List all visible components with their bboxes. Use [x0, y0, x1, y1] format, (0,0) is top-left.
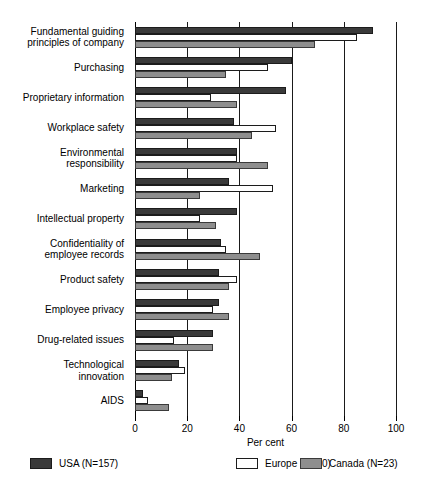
x-tick-mark — [187, 416, 188, 421]
category-label-line: AIDS — [0, 395, 124, 407]
bar-usa — [135, 178, 229, 185]
category-label: Proprietary information — [0, 92, 124, 104]
bar-canada — [135, 101, 237, 108]
bar-europe — [135, 34, 357, 41]
bar-group — [135, 204, 396, 234]
bar-canada — [135, 192, 200, 199]
category-label: Marketing — [0, 183, 124, 195]
bar-usa — [135, 208, 237, 215]
bar-europe — [135, 125, 276, 132]
x-axis-title: Per cent — [135, 437, 396, 448]
bar-usa — [135, 360, 179, 367]
bar-usa — [135, 57, 292, 64]
x-tick-mark — [239, 416, 240, 421]
bar-group — [135, 325, 396, 355]
bar-usa — [135, 27, 373, 34]
bar-canada — [135, 41, 315, 48]
bar-europe — [135, 155, 237, 162]
bar-europe — [135, 337, 174, 344]
bar-group — [135, 52, 396, 82]
category-label-line: employee records — [0, 249, 124, 261]
legend-item-canada: Canada (N=23) — [300, 458, 398, 469]
bar-group — [135, 174, 396, 204]
category-label-line: Purchasing — [0, 62, 124, 74]
category-label-line: Product safety — [0, 274, 124, 286]
chart-legend: USA (N=157)Europe (N=20)Canada (N=23) — [0, 458, 423, 480]
legend-item-usa: USA (N=157) — [30, 458, 118, 469]
bar-europe — [135, 215, 200, 222]
category-label-line: Proprietary information — [0, 92, 124, 104]
category-label: Product safety — [0, 274, 124, 286]
category-label: Confidentiality ofemployee records — [0, 238, 124, 261]
bar-canada — [135, 404, 169, 411]
category-label-line: Confidentiality of — [0, 238, 124, 250]
category-label-line: Fundamental guiding — [0, 26, 124, 38]
category-label: Drug-related issues — [0, 334, 124, 346]
bar-canada — [135, 313, 229, 320]
category-label: Purchasing — [0, 62, 124, 74]
bar-europe — [135, 276, 237, 283]
x-tick-label: 0 — [120, 423, 150, 434]
bar-group — [135, 22, 396, 52]
x-tick-mark — [135, 416, 136, 421]
bar-group — [135, 295, 396, 325]
bar-europe — [135, 246, 226, 253]
bar-europe — [135, 397, 148, 404]
plot-area — [135, 22, 396, 416]
bar-group — [135, 386, 396, 416]
category-label-line: responsibility — [0, 158, 124, 170]
x-tick-mark — [292, 416, 293, 421]
category-label-line: Intellectual property — [0, 213, 124, 225]
x-tick-mark — [344, 416, 345, 421]
bar-usa — [135, 118, 234, 125]
bar-canada — [135, 253, 260, 260]
category-label: Workplace safety — [0, 122, 124, 134]
bar-usa — [135, 87, 286, 94]
category-label-line: Employee privacy — [0, 304, 124, 316]
x-tick-label: 80 — [329, 423, 359, 434]
category-label-line: principles of company — [0, 37, 124, 49]
bar-canada — [135, 283, 229, 290]
category-label: AIDS — [0, 395, 124, 407]
bar-group — [135, 83, 396, 113]
bar-canada — [135, 344, 213, 351]
bar-canada — [135, 162, 268, 169]
legend-swatch-canada — [300, 458, 322, 469]
category-label: Intellectual property — [0, 213, 124, 225]
x-tick-label: 40 — [224, 423, 254, 434]
bar-group — [135, 113, 396, 143]
bar-europe — [135, 64, 268, 71]
x-tick-label: 20 — [172, 423, 202, 434]
category-label: Technologicalinnovation — [0, 359, 124, 382]
x-tick-label: 60 — [277, 423, 307, 434]
bar-canada — [135, 222, 216, 229]
bar-usa — [135, 390, 143, 397]
bar-group — [135, 264, 396, 294]
bar-group — [135, 143, 396, 173]
bar-canada — [135, 71, 226, 78]
bar-canada — [135, 374, 172, 381]
bar-europe — [135, 185, 273, 192]
category-label-line: Workplace safety — [0, 122, 124, 134]
legend-swatch-usa — [30, 458, 52, 469]
x-axis: 020406080100 — [135, 416, 396, 438]
bar-usa — [135, 299, 219, 306]
category-axis-labels: Fundamental guidingprinciples of company… — [0, 22, 130, 416]
category-label: Environmentalresponsibility — [0, 147, 124, 170]
bar-canada — [135, 132, 252, 139]
bar-europe — [135, 306, 213, 313]
bar-usa — [135, 269, 219, 276]
category-label-line: Environmental — [0, 147, 124, 159]
gridline-100 — [396, 22, 397, 416]
bar-group — [135, 355, 396, 385]
category-label-line: Marketing — [0, 183, 124, 195]
x-tick-label: 100 — [381, 423, 411, 434]
category-label-line: Technological — [0, 359, 124, 371]
category-label-line: innovation — [0, 371, 124, 383]
bar-europe — [135, 367, 185, 374]
category-label-line: Drug-related issues — [0, 334, 124, 346]
x-tick-mark — [396, 416, 397, 421]
bar-europe — [135, 94, 211, 101]
bar-usa — [135, 330, 213, 337]
bar-chart: Fundamental guidingprinciples of company… — [0, 0, 423, 488]
